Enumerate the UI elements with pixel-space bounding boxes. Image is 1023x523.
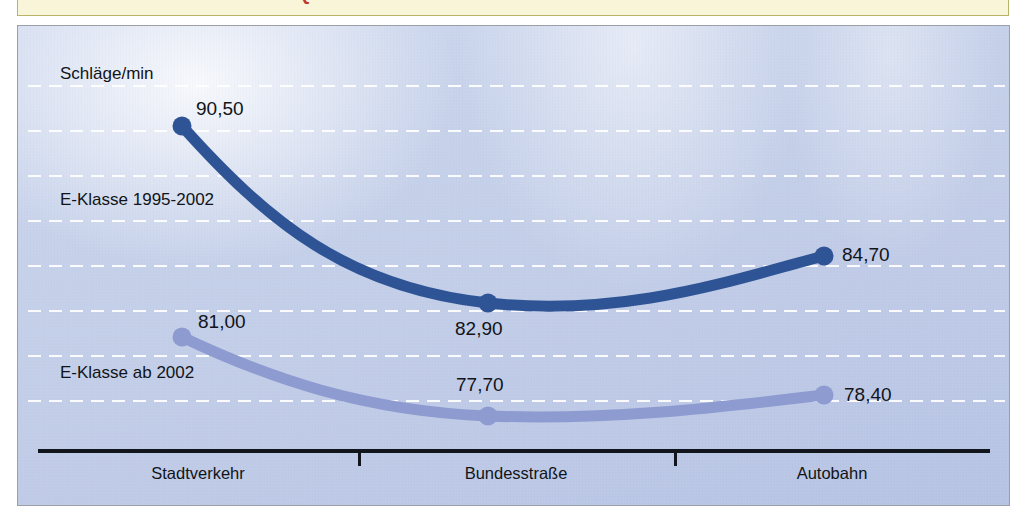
- chart-panel: Schläge/min E-Klasse 1995-2002 E-Klasse …: [17, 25, 1010, 506]
- chart-title: HERZFREQUENZ: WENIGER STRESS IN DER AKTU…: [18, 0, 1008, 5]
- value-label-series-1-2: 78,40: [844, 384, 892, 406]
- y-axis-title: Schläge/min: [60, 64, 154, 84]
- value-label-series-1-0: 81,00: [198, 311, 246, 333]
- data-point-series-1-0: [173, 328, 192, 347]
- chart-title-banner: HERZFREQUENZ: WENIGER STRESS IN DER AKTU…: [17, 0, 1009, 16]
- data-point-series-0-0: [173, 117, 192, 136]
- value-label-series-0-1: 82,90: [455, 318, 503, 340]
- data-point-series-1-1: [479, 407, 498, 426]
- value-label-series-1-1: 77,70: [456, 374, 504, 396]
- data-point-series-0-2: [815, 247, 834, 266]
- x-axis-label-0: Stadtverkehr: [38, 464, 358, 483]
- data-point-series-0-1: [479, 294, 498, 313]
- x-axis-label-2: Autobahn: [674, 464, 990, 483]
- value-label-series-0-2: 84,70: [842, 244, 890, 266]
- value-label-series-0-0: 90,50: [196, 98, 244, 120]
- line-series-0: [182, 126, 824, 306]
- x-axis-label-1: Bundesstraße: [358, 464, 674, 483]
- series-label-1: E-Klasse ab 2002: [60, 363, 194, 383]
- plot-area: [18, 26, 1010, 506]
- x-axis-line: [38, 449, 990, 453]
- data-point-series-1-2: [815, 386, 834, 405]
- series-label-0: E-Klasse 1995-2002: [60, 190, 214, 210]
